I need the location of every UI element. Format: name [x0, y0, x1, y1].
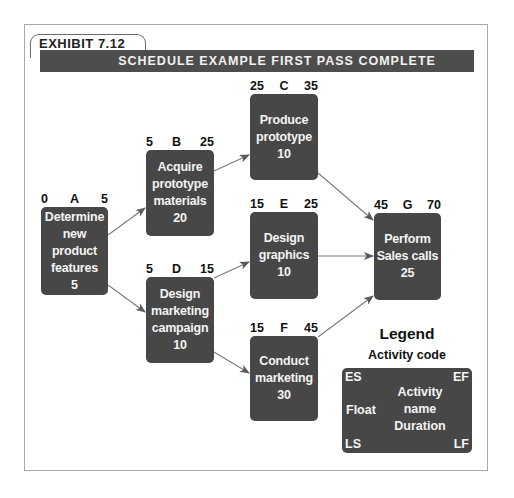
legend-activity: Activity [388, 385, 452, 399]
node-a-line-4: features [51, 260, 98, 277]
legend-box: ES EF Float Activity name Duration LS LF [342, 368, 472, 453]
legend-es: ES [345, 370, 362, 384]
node-c-duration: 10 [277, 146, 291, 163]
node-a-code: A [70, 192, 79, 206]
legend-lf: LF [454, 437, 469, 451]
node-e-code: E [280, 197, 288, 211]
node-e-header: 15 E 25 [250, 197, 318, 211]
activity-node-b[interactable]: Acquire prototype materials 20 [146, 150, 214, 236]
node-a-ef: 5 [101, 192, 108, 206]
node-f-duration: 30 [277, 387, 291, 404]
node-c-ef: 35 [304, 79, 318, 93]
node-c-es: 25 [250, 79, 264, 93]
node-c-code: C [279, 79, 288, 93]
node-g-line-1: Perform [384, 231, 431, 248]
legend-float: Float [346, 403, 376, 417]
node-a-line-3: product [52, 243, 97, 260]
node-a-header: 0 A 5 [41, 192, 108, 206]
legend-name: name [388, 402, 452, 416]
arrow-c-g [318, 173, 373, 220]
node-d-line-1: Design [160, 286, 200, 303]
node-c-header: 25 C 35 [250, 79, 318, 93]
legend-ls: LS [345, 437, 361, 451]
arrow-b-c [214, 155, 249, 171]
activity-node-d[interactable]: Design marketing campaign 10 [146, 277, 214, 363]
arrow-a-d [108, 285, 145, 312]
activity-node-g[interactable]: Perform Sales calls 25 [374, 213, 441, 300]
arrow-d-f [214, 352, 249, 373]
node-d-header: 5 D 15 [146, 262, 214, 276]
node-f-line-1: Conduct [259, 353, 308, 370]
node-d-line-3: campaign [152, 320, 209, 337]
node-g-line-2: Sales calls [377, 248, 439, 265]
activity-node-e[interactable]: Design graphics 10 [250, 212, 318, 299]
node-g-es: 45 [374, 198, 388, 212]
node-f-code: F [280, 321, 288, 335]
node-b-code: B [172, 135, 181, 149]
node-g-duration: 25 [401, 265, 415, 282]
activity-node-a[interactable]: Determine new product features 5 [41, 207, 108, 295]
node-a-duration: 5 [71, 277, 78, 294]
node-d-es: 5 [146, 262, 153, 276]
node-a-es: 0 [41, 192, 48, 206]
node-g-header: 45 G 70 [374, 198, 441, 212]
legend-subtitle: Activity code [342, 348, 472, 362]
node-e-ef: 25 [304, 197, 318, 211]
arrow-d-e [214, 262, 249, 278]
node-e-line-1: Design [264, 230, 304, 247]
node-e-duration: 10 [277, 264, 291, 281]
node-d-duration: 10 [173, 337, 187, 354]
legend-duration: Duration [388, 419, 452, 433]
node-c-line-2: prototype [256, 129, 312, 146]
node-f-line-2: marketing [255, 370, 313, 387]
node-d-ef: 15 [200, 262, 214, 276]
node-f-header: 15 F 45 [250, 321, 318, 335]
node-e-line-2: graphics [259, 247, 310, 264]
node-f-es: 15 [250, 321, 264, 335]
node-a-line-1: Determine [45, 209, 104, 226]
legend-title: Legend [342, 325, 472, 343]
node-b-line-2: prototype [152, 176, 208, 193]
node-b-duration: 20 [173, 210, 187, 227]
legend-ef: EF [453, 370, 469, 384]
node-g-ef: 70 [427, 198, 441, 212]
node-b-ef: 25 [200, 135, 214, 149]
arrow-a-b [108, 208, 145, 235]
node-b-header: 5 B 25 [146, 135, 214, 149]
activity-node-f[interactable]: Conduct marketing 30 [250, 336, 318, 421]
node-e-es: 15 [250, 197, 264, 211]
node-b-line-3: materials [153, 193, 206, 210]
node-a-line-2: new [63, 226, 87, 243]
activity-node-c[interactable]: Produce prototype 10 [250, 94, 318, 180]
node-d-code: D [172, 262, 181, 276]
node-f-ef: 45 [304, 321, 318, 335]
node-g-code: G [403, 198, 413, 212]
node-b-line-1: Acquire [157, 159, 202, 176]
node-c-line-1: Produce [260, 112, 309, 129]
node-b-es: 5 [146, 135, 153, 149]
node-d-line-2: marketing [151, 303, 209, 320]
